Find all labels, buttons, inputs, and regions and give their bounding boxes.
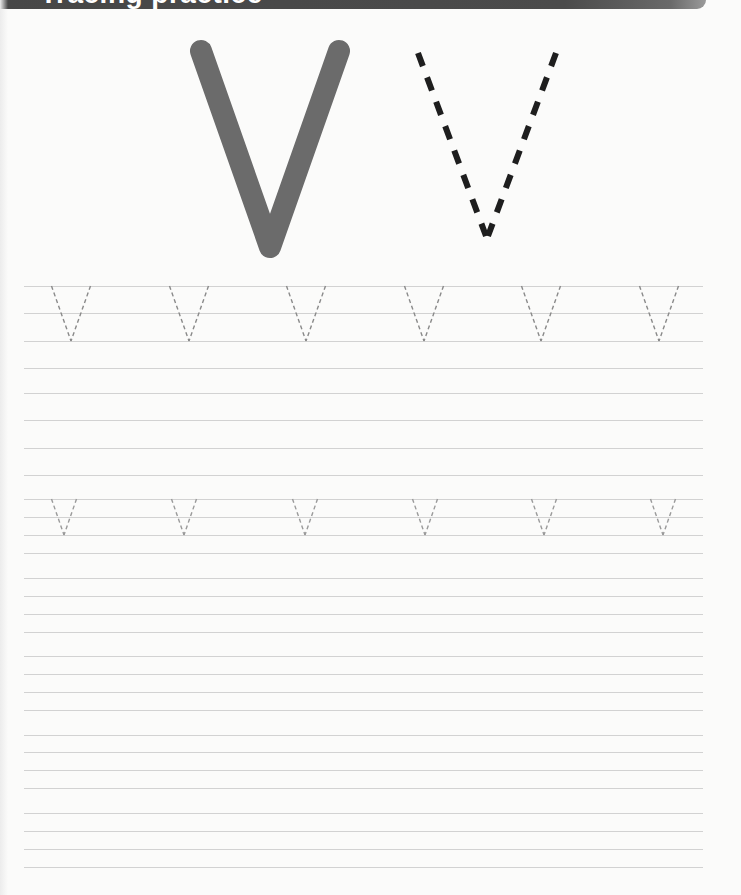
model-letter-dashed-v <box>418 53 556 236</box>
worksheet-canvas <box>0 0 741 895</box>
tracing-rows <box>52 286 679 535</box>
model-letter-solid-v <box>201 51 339 247</box>
guide-lines <box>24 287 703 868</box>
